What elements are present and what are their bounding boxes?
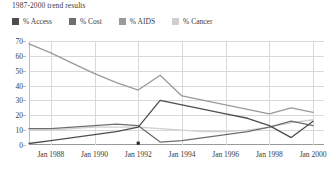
chart-title: 1987-2000 trend results	[12, 1, 86, 10]
x-tick-label: Jan 1988	[37, 150, 64, 159]
y-tick-label: 10	[16, 126, 24, 135]
legend-swatch-icon	[12, 18, 19, 25]
legend-item-aids[interactable]: % AIDS	[119, 18, 155, 25]
y-axis-labels: 010203040506070	[0, 36, 26, 150]
legend-label: % AIDS	[130, 18, 155, 25]
x-axis-labels: Jan 1988Jan 1990Jan 1992Jan 1994Jan 1996…	[0, 148, 330, 162]
plot-area	[29, 41, 324, 145]
y-tick-label: 40	[16, 81, 24, 90]
legend-item-cost[interactable]: % Cost	[69, 18, 102, 25]
series-line-access	[29, 100, 313, 143]
legend-label: % Access	[23, 18, 52, 25]
x-tick-label: Jan 2000	[300, 150, 327, 159]
y-tick-label: 60	[16, 51, 24, 60]
legend-item-cancer[interactable]: % Cancer	[172, 18, 212, 25]
y-tick-label: 20	[16, 111, 24, 120]
y-tick-mark	[23, 86, 26, 87]
y-tick-mark	[23, 115, 26, 116]
chart-legend: % Access% Cost% AIDS% Cancer	[12, 16, 229, 27]
y-tick-mark	[23, 145, 26, 146]
series-line-aids	[29, 44, 313, 114]
x-tick-label: Jan 1994	[169, 150, 196, 159]
x-tick-label: Jan 1990	[81, 150, 108, 159]
y-tick-label: 50	[16, 66, 24, 75]
y-tick-mark	[23, 71, 26, 72]
y-tick-mark	[23, 130, 26, 131]
y-tick-mark	[23, 56, 26, 57]
y-tick-mark	[23, 41, 26, 42]
y-tick-mark	[23, 100, 26, 101]
x-tick-label: Jan 1998	[256, 150, 283, 159]
series-layer	[29, 41, 324, 145]
legend-label: % Cancer	[183, 18, 212, 25]
x-tick-label: Jan 1996	[212, 150, 239, 159]
data-point-marker	[137, 142, 140, 145]
x-tick-label: Jan 1992	[125, 150, 152, 159]
legend-swatch-icon	[69, 18, 76, 25]
line-chart: 1987-2000 trend results % Access% Cost% …	[0, 0, 330, 169]
series-line-cost	[29, 121, 313, 142]
y-tick-label: 30	[16, 96, 24, 105]
y-tick-label: 70	[16, 37, 24, 46]
legend-swatch-icon	[119, 18, 126, 25]
legend-swatch-icon	[172, 18, 179, 25]
legend-label: % Cost	[80, 18, 102, 25]
legend-item-access[interactable]: % Access	[12, 18, 52, 25]
